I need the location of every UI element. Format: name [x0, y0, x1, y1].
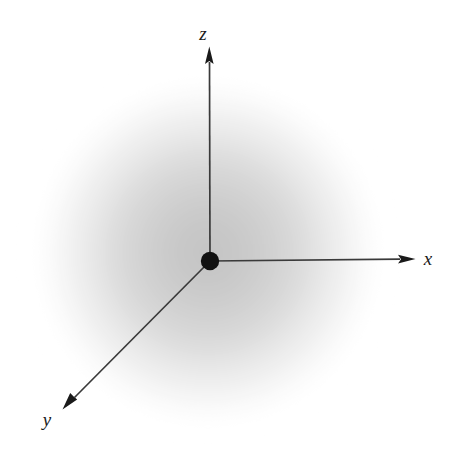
figure-root: z x y [0, 0, 459, 450]
coordinate-axes-figure: z x y [0, 0, 459, 450]
electron-cloud [36, 80, 380, 424]
y-axis-label: y [41, 409, 52, 430]
x-axis-arrowhead [398, 255, 416, 264]
y-axis-arrowhead [63, 393, 78, 410]
z-axis-label: z [198, 23, 207, 44]
x-axis-label: x [423, 248, 433, 269]
z-axis-arrowhead [205, 47, 214, 65]
origin-dot [201, 252, 219, 270]
